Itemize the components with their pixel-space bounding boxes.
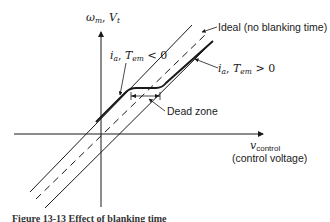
negative-current-leader — [120, 63, 126, 95]
negative-current-label: ia, Tem < 0 — [110, 50, 167, 63]
y-axis-symbol-v: V — [109, 11, 117, 24]
y-axis-label: ωm, Vt — [86, 12, 120, 25]
dead-zone-arrow-left — [131, 94, 136, 98]
ideal-leader — [202, 27, 217, 32]
y-axis-sub-t: t — [117, 16, 120, 25]
positive-current-line — [45, 41, 213, 208]
pos-sep: , — [226, 62, 233, 75]
neg-sub-em: em — [132, 54, 144, 63]
y-axis-symbol-omega: ω — [86, 11, 95, 24]
pos-rel: > 0 — [252, 62, 275, 75]
dead-zone-label: Dead zone — [167, 106, 218, 117]
positive-current-leader — [195, 59, 218, 68]
blanking-time-diagram — [0, 0, 330, 222]
ideal-label: Ideal (no blanking time) — [218, 22, 327, 33]
neg-rel: < 0 — [144, 49, 167, 62]
pos-sub-em: em — [240, 67, 252, 76]
figure-caption: Figure 13-13 Effect of blanking time — [12, 214, 167, 222]
dead-zone-leader — [149, 99, 165, 111]
positive-current-label: ia, Tem > 0 — [218, 63, 275, 76]
neg-sep: , — [118, 49, 125, 62]
x-axis-description: (control voltage) — [232, 153, 307, 164]
